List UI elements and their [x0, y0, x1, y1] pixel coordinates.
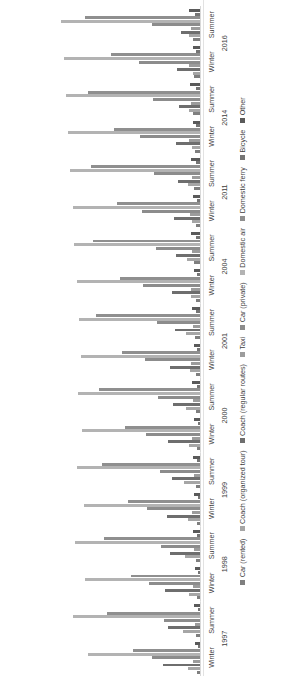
legend-label: Domestic ferry: [238, 167, 247, 213]
legend-label: Bicycle: [238, 130, 247, 153]
bar: [197, 459, 200, 462]
bar: [193, 46, 200, 49]
bar: [122, 351, 200, 354]
bar: [193, 325, 200, 328]
bar: [194, 604, 200, 607]
bar: [194, 493, 200, 496]
legend-item[interactable]: Other: [238, 97, 247, 122]
bar: [179, 105, 200, 108]
bar: [174, 217, 200, 220]
bar: [189, 109, 200, 112]
bar: [196, 124, 200, 127]
legend-item[interactable]: Car (rented): [238, 538, 247, 584]
bar: [193, 660, 200, 663]
bar: [117, 202, 200, 205]
bar: [192, 250, 200, 253]
bar: [188, 518, 200, 521]
bar: [66, 94, 200, 97]
bar: [192, 437, 200, 440]
bar: [68, 131, 200, 134]
season-label: Winter: [203, 490, 220, 527]
bar: [84, 504, 200, 507]
bar: [153, 98, 200, 101]
legend-label: Other: [238, 97, 247, 115]
bar: [193, 112, 200, 115]
legend-swatch-icon: [240, 526, 245, 531]
legend-swatch-icon: [240, 580, 245, 585]
bar: [176, 142, 200, 145]
bar: [196, 236, 200, 239]
legend-swatch-icon: [240, 270, 245, 275]
year-label: 2001: [220, 304, 229, 378]
bar: [85, 578, 200, 581]
season-label: Winter: [203, 118, 220, 155]
legend-swatch-icon: [240, 216, 245, 221]
bar: [160, 470, 200, 473]
bar: [181, 31, 200, 34]
legend-item[interactable]: Car (private): [238, 282, 247, 329]
bar: [128, 500, 200, 503]
bar: [196, 161, 200, 164]
bar: [193, 399, 200, 402]
bar: [146, 433, 200, 436]
bar: [111, 53, 200, 56]
season-label: Summer: [203, 80, 220, 117]
bar: [79, 318, 200, 321]
bar: [145, 358, 200, 361]
bar: [198, 571, 200, 574]
bar: [149, 582, 200, 585]
bar: [198, 496, 200, 499]
bar: [183, 630, 200, 633]
bar: [152, 656, 201, 659]
bar: [154, 172, 200, 175]
bar: [104, 537, 200, 540]
bar: [196, 634, 200, 637]
bar: [195, 567, 200, 570]
legend-item[interactable]: Domestic ferry: [238, 167, 247, 221]
legend-item[interactable]: Coach (organized tour): [238, 450, 247, 531]
bar: [189, 9, 200, 12]
legend-label: Coach (organized tour): [238, 450, 247, 524]
bar: [196, 299, 200, 302]
bar: [197, 447, 200, 450]
bar: [197, 348, 200, 351]
bar: [196, 410, 200, 413]
season-label: Winter: [203, 564, 220, 601]
legend-swatch-icon: [240, 438, 245, 443]
bar: [156, 247, 200, 250]
chart-legend: Car (rented)Coach (organized tour)Coach …: [238, 6, 247, 676]
legend-item[interactable]: Coach (regular routes): [238, 364, 247, 443]
legend-item[interactable]: Taxi: [238, 337, 247, 357]
bar: [167, 515, 200, 518]
season-label: Winter: [203, 415, 220, 452]
bar: [194, 187, 200, 190]
legend-swatch-icon: [240, 118, 245, 123]
bar: [184, 481, 200, 484]
bar: [125, 426, 200, 429]
bar: [77, 466, 200, 469]
year-label: 1998: [220, 527, 229, 601]
bar: [195, 642, 200, 645]
legend-swatch-icon: [240, 325, 245, 330]
bar: [152, 23, 201, 26]
bar: [196, 373, 200, 376]
season-label: Summer: [203, 602, 220, 639]
bar: [193, 585, 200, 588]
legend-item[interactable]: Bicycle: [238, 130, 247, 160]
bar: [77, 280, 200, 283]
bar: [196, 50, 200, 53]
legend-item[interactable]: Domestic air: [238, 228, 247, 275]
legend-swatch-icon: [240, 352, 245, 357]
bar: [196, 310, 200, 313]
season-label: Winter: [203, 192, 220, 229]
bar: [170, 552, 200, 555]
season-label: Summer: [203, 155, 220, 192]
bar: [165, 589, 200, 592]
legend-label: Car (private): [238, 282, 247, 322]
bar-chart: 010203040506070 WinterSummerWinterSummer…: [0, 0, 281, 684]
bar: [194, 474, 200, 477]
bar: [191, 362, 200, 365]
bar: [163, 664, 200, 667]
bar: [189, 139, 200, 142]
season-label: Winter: [203, 43, 220, 80]
